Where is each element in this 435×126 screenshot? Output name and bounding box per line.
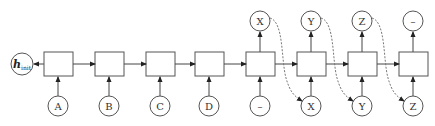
cell-3 xyxy=(146,52,175,76)
output-label: X xyxy=(256,16,264,27)
output-node-eos: – xyxy=(403,11,423,52)
output-label: Y xyxy=(307,16,315,27)
input-label: B xyxy=(105,101,112,112)
initial-state-node: hinit xyxy=(11,53,33,75)
output-node-y: Y xyxy=(301,11,321,52)
output-node-x: X xyxy=(250,11,270,52)
output-label: Z xyxy=(359,16,366,27)
input-node-x: X xyxy=(301,77,321,116)
cell-2 xyxy=(95,52,124,76)
input-label: X xyxy=(307,101,315,112)
input-node-b: B xyxy=(99,77,119,116)
output-label: – xyxy=(411,16,416,27)
output-node-z: Z xyxy=(352,11,372,52)
h-label: h xyxy=(13,58,21,71)
input-node-c: C xyxy=(150,77,170,116)
input-label: – xyxy=(258,101,263,112)
input-label: Y xyxy=(358,101,366,112)
init-subscript: init xyxy=(21,64,32,71)
input-nodes: A B C D – X Y xyxy=(48,77,423,116)
cell-5 xyxy=(246,52,275,76)
input-label: Z xyxy=(410,101,417,112)
input-node-d: D xyxy=(199,77,219,116)
input-node-z: Z xyxy=(403,77,423,116)
cell-1 xyxy=(44,52,73,76)
cell-4 xyxy=(195,52,224,76)
input-node-eos: – xyxy=(250,77,270,116)
output-nodes: X Y Z – xyxy=(250,11,423,52)
input-node-a: A xyxy=(48,77,68,116)
rnn-diagram: hinit A B xyxy=(0,0,435,126)
input-label: A xyxy=(53,101,62,112)
cell-7 xyxy=(348,52,377,76)
input-node-y: Y xyxy=(352,77,372,116)
feedback-edges xyxy=(270,18,404,101)
cell-8 xyxy=(399,52,428,76)
cell-6 xyxy=(297,52,326,76)
input-label: C xyxy=(156,101,164,112)
input-label: D xyxy=(205,101,213,112)
